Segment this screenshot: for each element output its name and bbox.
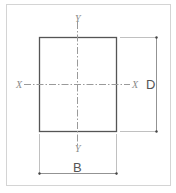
depth-label: D [146, 77, 155, 92]
b-tick-right [115, 172, 117, 174]
figure-frame [7, 5, 171, 186]
y-bottom-label: Y [75, 143, 82, 154]
b-tick-left [38, 172, 40, 174]
section-diagram: Y Y X X D B [0, 0, 176, 193]
y-top-label: Y [75, 13, 82, 24]
d-tick-top [155, 36, 157, 38]
x-right-label: X [131, 79, 139, 90]
d-tick-bottom [155, 130, 157, 132]
breadth-label: B [73, 160, 82, 175]
x-left-label: X [15, 79, 23, 90]
